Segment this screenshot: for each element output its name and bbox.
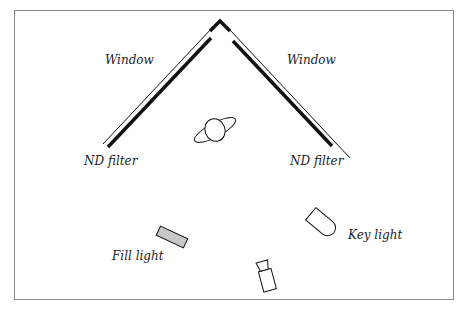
subject-icon [191,113,238,147]
window-right [230,30,350,158]
window-left-label: Window [105,54,154,66]
window-corner [210,21,230,31]
fill-light-icon [156,226,187,248]
camera-icon [256,260,276,292]
window-left [103,28,212,144]
nd-filter-right-label: ND filter [290,155,343,167]
key-light-label: Key light [348,229,402,241]
fill-light-label: Fill light [112,250,164,262]
window-right-label: Window [287,54,336,66]
key-light-icon [306,208,339,240]
lighting-diagram [0,0,464,311]
nd-filter-left-label: ND filter [84,155,137,167]
